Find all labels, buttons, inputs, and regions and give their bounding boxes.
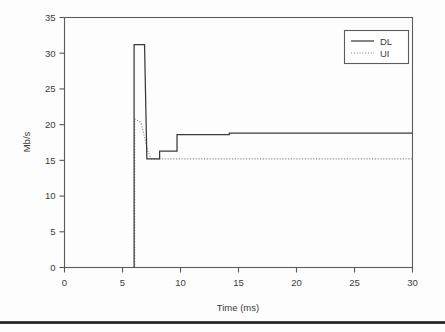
y-axis-title: Mb/s (21, 131, 32, 152)
y-tick-label: 25 (45, 83, 56, 94)
y-tick-label: 30 (45, 48, 56, 59)
x-tick-label: 10 (175, 277, 186, 288)
x-axis-ticks: 051015202530 (62, 268, 418, 288)
scan-artifact-bar (0, 321, 445, 324)
x-tick-label: 5 (120, 277, 125, 288)
y-tick-label: 5 (50, 226, 55, 237)
x-tick-label: 0 (62, 277, 67, 288)
y-axis-ticks: 05101520253035 (45, 12, 65, 273)
series-line-dl (134, 45, 412, 268)
chart-figure: 05101520253035 051015202530 Mb/s Time (m… (0, 0, 445, 332)
x-axis-title: Time (ms) (217, 302, 259, 313)
x-tick-label: 20 (291, 277, 302, 288)
chart-svg: 05101520253035 051015202530 Mb/s Time (m… (0, 0, 445, 332)
chart-legend: DL UI (345, 31, 409, 64)
y-tick-label: 15 (45, 155, 56, 166)
y-tick-label: 0 (50, 262, 55, 273)
legend-label-ui: UI (380, 48, 390, 59)
x-tick-label: 15 (233, 277, 244, 288)
x-tick-label: 30 (407, 277, 418, 288)
series-line-ui (135, 119, 413, 268)
legend-box (345, 31, 409, 64)
y-tick-label: 10 (45, 190, 56, 201)
x-tick-label: 25 (349, 277, 360, 288)
y-tick-label: 20 (45, 119, 56, 130)
legend-label-dl: DL (380, 36, 392, 47)
y-tick-label: 35 (45, 12, 56, 23)
